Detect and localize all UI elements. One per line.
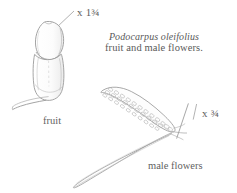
figure-label-male-flowers: male flowers — [148, 160, 203, 172]
magnification-male-flowers-text: x ¾ — [202, 107, 219, 119]
caption-block: Podocarpus oleifolius fruit and male flo… — [105, 31, 203, 54]
caption-description: fruit and male flowers. — [105, 42, 203, 54]
magnification-fruit-text: x 1¾ — [77, 6, 100, 18]
botanical-plate: x 1¾ Podocarpus oleifolius fruit and mal… — [0, 0, 237, 193]
fruit-receptacle — [33, 54, 64, 100]
male-flowers-figure — [73, 87, 187, 188]
magnification-label-fruit: x 1¾ — [77, 6, 100, 18]
magnification-label-male-flowers: x ¾ — [202, 107, 219, 119]
scientific-name: Podocarpus oleifolius — [105, 31, 203, 42]
fruit-seed — [35, 21, 63, 60]
pollen-cone — [101, 87, 175, 132]
figure-label-fruit: fruit — [43, 115, 61, 127]
fruit-figure — [12, 21, 64, 109]
